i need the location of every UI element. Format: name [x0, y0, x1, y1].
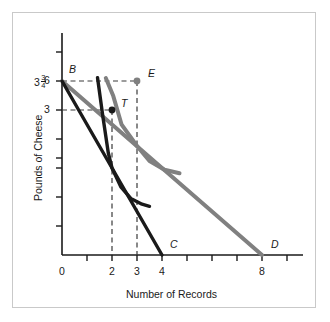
x-tick-label-3: 3 — [134, 266, 140, 277]
point-label-C: C — [170, 239, 178, 250]
x-tick-label-2: 2 — [109, 266, 115, 277]
mixed-whole: 3 — [34, 77, 40, 88]
plot-area — [0, 0, 330, 322]
x-tick-label-8: 8 — [259, 266, 265, 277]
y-axis-title: Pounds of Cheese — [33, 115, 44, 201]
indifference-curve-gray-path — [106, 78, 220, 155]
x-axis-ticks — [87, 255, 287, 261]
y-axis-ticks — [56, 52, 62, 226]
point-label-D: D — [271, 239, 279, 250]
point-label-T: T — [121, 98, 127, 109]
y-tick-label-3: 3 — [44, 104, 50, 115]
x-axis-title: Number of Records — [126, 289, 217, 300]
chart-figure: 6 3 3 3 4 0 2 3 4 8 B C D E T Pounds of … — [0, 0, 330, 322]
fraction-denominator: 4 — [41, 82, 46, 90]
point-marker-E — [134, 78, 141, 85]
x-tick-label-4: 4 — [159, 266, 165, 277]
mixed-fraction: 3 4 — [41, 74, 46, 90]
point-label-B: B — [69, 64, 76, 75]
point-marker-T — [109, 107, 116, 114]
x-tick-label-0: 0 — [59, 266, 65, 277]
point-label-E: E — [148, 68, 155, 79]
y-tick-label-3-and-3-4: 3 3 4 — [34, 74, 46, 90]
indifference-curve-gray-line — [106, 78, 180, 173]
